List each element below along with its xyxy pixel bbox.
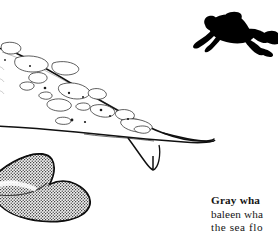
illustration-page: Gray wha baleen wha the sea flo <box>0 0 278 247</box>
caption-text-block: Gray wha baleen wha the sea flo <box>211 194 278 235</box>
caption-line-3: the sea flo <box>211 221 278 235</box>
caption-line-1: Gray wha <box>211 194 278 208</box>
caption-line-2: baleen wha <box>211 208 278 222</box>
